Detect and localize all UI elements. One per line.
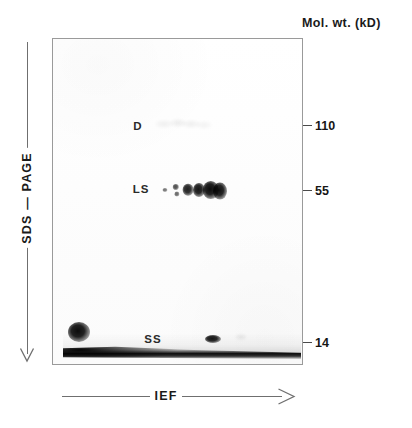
mw-tick-110 — [303, 125, 312, 126]
mw-tick-14 — [303, 342, 312, 343]
gel-background — [53, 39, 302, 364]
ief-arrow-icon — [278, 388, 296, 405]
gel-spot — [196, 121, 212, 129]
gel-label-d: D — [133, 120, 142, 132]
mw-label-14: 14 — [315, 336, 329, 350]
ief-axis-label: IEF — [154, 389, 177, 403]
mw-tick-55 — [303, 190, 312, 191]
gel-label-ss: SS — [144, 333, 161, 345]
gel-spot — [213, 183, 227, 200]
gel-spot — [68, 322, 90, 342]
gel-spot — [235, 334, 247, 340]
mw-label-110: 110 — [315, 119, 335, 133]
gel-spot — [163, 188, 168, 192]
gel-figure: Mol. wt. (kD) DLSSS 1105514 SDS — PAGE I… — [0, 0, 412, 428]
gel-label-ls: LS — [133, 183, 150, 195]
gel-panel: DLSSS — [52, 38, 303, 365]
gel-spot — [205, 335, 221, 343]
molecular-weight-header: Mol. wt. (kD) — [302, 16, 381, 30]
gel-streak-haze — [63, 333, 301, 355]
mw-label-55: 55 — [315, 184, 329, 198]
sds-page-arrow-icon — [19, 348, 35, 363]
sds-page-axis-label: SDS — PAGE — [17, 148, 37, 248]
gel-spot — [174, 192, 179, 197]
ief-axis-line-right — [182, 396, 282, 397]
gel-spot — [183, 184, 194, 196]
ief-axis-line-left — [62, 396, 150, 397]
